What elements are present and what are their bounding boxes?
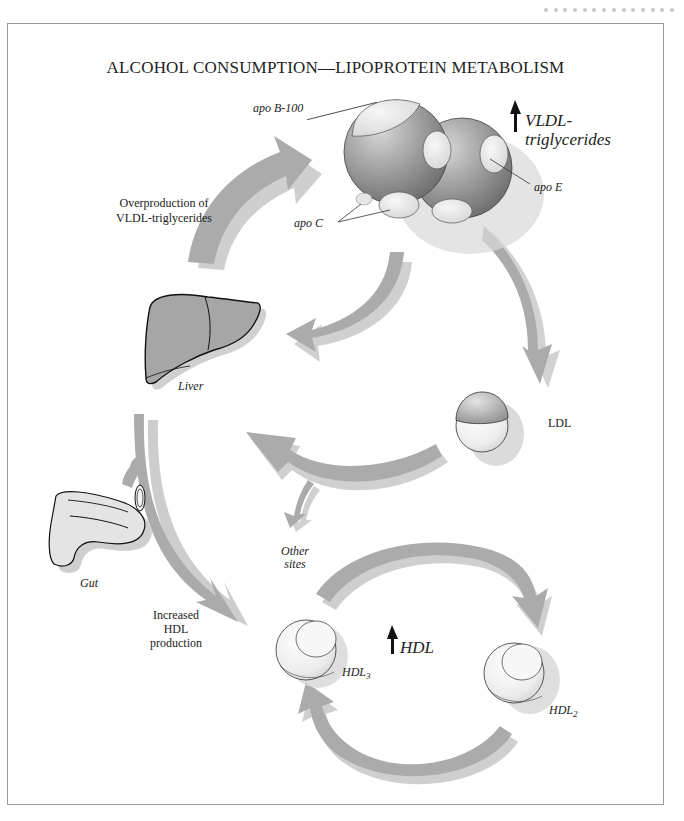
label-increased-line1: Increased [136,608,216,622]
label-overproduction-line2: VLDL-triglycerides [94,211,234,225]
gut-icon [49,485,152,573]
label-vldl-line1: VLDL- [525,111,572,130]
arrow-hdl2-to-hdl3 [298,682,518,784]
label-apo-c: apo C [294,216,323,230]
arrow-liver-to-hdl3 [134,414,248,626]
figure-title: ALCOHOL CONSUMPTION—LIPOPROTEIN METABOLI… [7,58,664,78]
ldl-particle [456,392,524,466]
label-apo-b100: apo B-100 [253,101,303,115]
hdl-increase-arrow-icon [387,625,398,654]
vldl-increase-arrow-icon [510,100,521,132]
label-overproduction-line1: Overproduction of [94,196,234,210]
label-other-sites-line1: Other [270,544,320,558]
label-gut: Gut [80,576,98,590]
lipoprotein-diagram [0,0,684,821]
label-hdl3: HDL3 [342,665,371,683]
label-other-sites-line2: sites [270,557,320,571]
label-hdl2: HDL2 [549,703,578,721]
label-increased-line3: production [136,636,216,650]
arrow-ldl-to-liver [246,432,448,532]
label-increased-line2: HDL [136,622,216,636]
liver-icon [145,294,266,389]
label-liver: Liver [178,379,203,393]
label-apo-e: apo E [534,180,562,194]
arrow-hdl3-to-hdl2 [316,543,552,636]
hdl3-particle [276,620,348,688]
label-vldl-line2: triglycerides [525,130,611,149]
arrow-vldl-remnant-to-liver [286,252,412,362]
label-ldl: LDL [548,416,571,430]
label-hdl: HDL [400,638,434,657]
